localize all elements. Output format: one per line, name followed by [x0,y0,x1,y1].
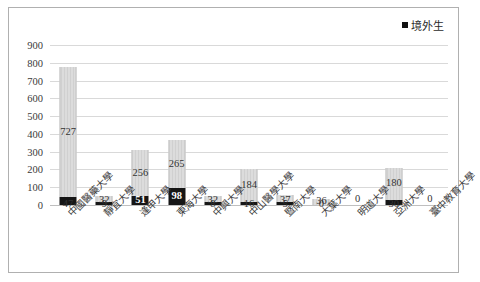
y-tick-label: 500 [0,111,43,122]
legend-swatch-icon [402,22,408,28]
bar-value-label-local: 256 [133,168,149,179]
y-tick-label: 700 [0,75,43,86]
bar-slot[interactable]: 0 [340,45,376,205]
bar-value-label-local: 265 [169,159,185,170]
chart-legend: 境外生 [402,17,444,33]
bar-value-label-local: 727 [60,127,76,138]
y-tick-label: 300 [0,146,43,157]
y-tick-label: 400 [0,128,43,139]
chart-frame: 境外生 9008007006005004003002001000 7274732… [8,7,459,273]
y-tick-label: 600 [0,93,43,104]
bar-slot[interactable]: 26598 [159,45,195,205]
legend-label-overseas: 境外生 [411,17,444,33]
y-tick-label: 200 [0,164,43,175]
y-tick-label: 100 [0,182,43,193]
bar-slot[interactable]: 72747 [50,45,86,205]
y-tick-label: 900 [0,40,43,51]
y-tick-label: 0 [0,200,43,211]
y-tick-label: 800 [0,57,43,68]
x-axis-labels: 中國醫藥大學靜宜大學逢甲大學東海大學中興大學中山醫學大學暨南大學大葉大學明道大學… [50,207,448,282]
bar-value-label-local: 180 [386,178,402,189]
